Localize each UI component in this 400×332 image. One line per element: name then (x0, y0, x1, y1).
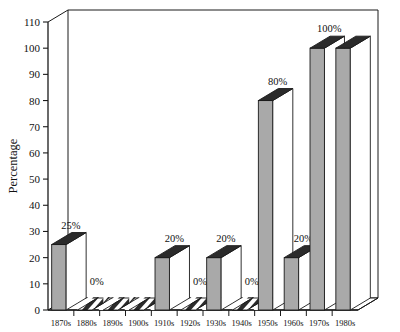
x-axis-category-label: 1950s (257, 318, 277, 328)
bar-front-face (258, 101, 272, 310)
bar-group (336, 36, 370, 310)
y-axis-tick-label: 70 (29, 121, 41, 133)
x-axis-category-label: 1900s (128, 318, 148, 328)
plot-top-left-edge (48, 10, 68, 22)
x-axis-category-label: 1930s (206, 318, 226, 328)
bar-front-face (310, 48, 324, 310)
bar-value-label: 100% (317, 23, 342, 34)
bar-front-face (155, 258, 169, 310)
bar-group (155, 246, 189, 310)
y-axis-tick-label: 80 (29, 95, 41, 107)
bar-front-face (52, 245, 66, 310)
bar-value-label: 80% (268, 76, 288, 87)
bar-value-label: 0% (245, 276, 259, 287)
bar-value-label: 20% (216, 233, 236, 244)
y-axis-tick-label: 110 (24, 16, 41, 28)
y-axis-title: Percentage (6, 138, 20, 193)
bar-value-label: 0% (90, 276, 104, 287)
x-axis-category-label: 1890s (102, 318, 122, 328)
y-axis-tick-label: 50 (29, 173, 41, 185)
bar-front-face (336, 48, 350, 310)
x-axis-category-label: 1980s (335, 318, 355, 328)
bar-front-face (207, 258, 221, 310)
bar-chart: 0102030405060708090100110Percentage25%18… (0, 0, 400, 332)
bar-value-label: 20% (165, 233, 185, 244)
x-axis-category-label: 1870s (51, 318, 71, 328)
bar-side-face (66, 233, 86, 310)
bar-group (207, 246, 241, 310)
y-axis-tick-label: 10 (29, 278, 41, 290)
x-axis-category-label: 1970s (309, 318, 329, 328)
y-axis-tick-label: 100 (24, 42, 41, 54)
x-axis-category-label: 1920s (180, 318, 200, 328)
bar-value-label: 0% (193, 276, 207, 287)
bar-value-label: 25% (61, 220, 81, 231)
y-axis-tick-label: 90 (29, 68, 41, 80)
chart-container: 0102030405060708090100110Percentage25%18… (0, 0, 400, 332)
bar-side-face (350, 36, 370, 310)
x-axis-category-label: 1960s (283, 318, 303, 328)
x-axis-category-label: 1940s (232, 318, 252, 328)
y-axis-tick-label: 20 (29, 252, 41, 264)
y-axis-tick-label: 60 (29, 147, 41, 159)
x-axis-category-label: 1880s (77, 318, 97, 328)
y-axis-tick-label: 30 (29, 225, 41, 237)
y-axis-tick-label: 40 (29, 199, 41, 211)
y-axis-tick-label: 0 (35, 304, 41, 316)
bar-front-face (284, 258, 298, 310)
x-axis-category-label: 1910s (154, 318, 174, 328)
